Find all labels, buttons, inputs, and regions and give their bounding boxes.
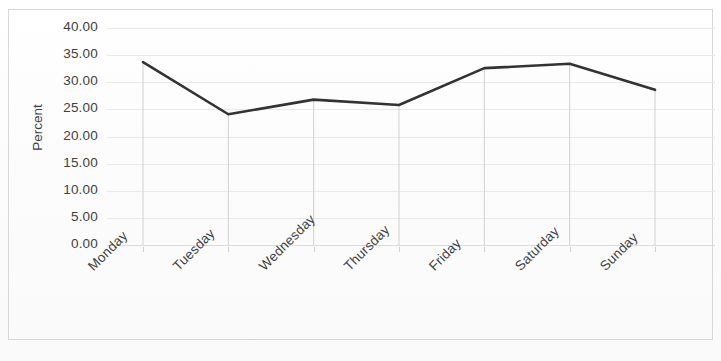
- data-series-line: [107, 28, 715, 245]
- series-percent-line: [143, 62, 655, 114]
- y-tick-40.00: 40.00: [63, 19, 98, 34]
- x-tick-mark-friday: [484, 247, 485, 252]
- x-tick-mark-thursday: [399, 247, 400, 252]
- y-tick-15.00: 15.00: [63, 155, 98, 170]
- y-tick-20.00: 20.00: [63, 128, 98, 143]
- y-tick-30.00: 30.00: [63, 73, 98, 88]
- y-tick-25.00: 25.00: [63, 100, 98, 115]
- x-tick-mark-sunday: [655, 247, 656, 252]
- y-axis-tick-labels: 40.0035.0030.0025.0020.0015.0010.005.000…: [0, 28, 98, 245]
- x-tick-mark-wednesday: [314, 247, 315, 252]
- x-tick-mark-saturday: [570, 247, 571, 252]
- line-chart: Percent 40.0035.0030.0025.0020.0015.0010…: [0, 0, 721, 361]
- y-tick-5.00: 5.00: [71, 209, 98, 224]
- plot-area: [107, 28, 715, 245]
- y-tick-35.00: 35.00: [63, 46, 98, 61]
- y-tick-10.00: 10.00: [63, 182, 98, 197]
- x-tick-mark-tuesday: [228, 247, 229, 252]
- y-tick-0.00: 0.00: [71, 236, 98, 251]
- x-axis-tick-labels: MondayTuesdayWednesdayThursdayFridaySatu…: [107, 247, 715, 342]
- x-tick-mark-monday: [143, 247, 144, 252]
